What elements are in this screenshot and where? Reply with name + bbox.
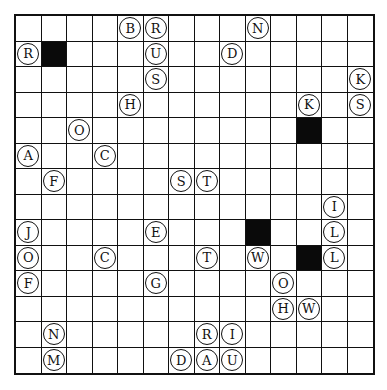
grid-cell[interactable] — [348, 297, 374, 323]
grid-cell[interactable] — [220, 169, 246, 195]
grid-cell[interactable] — [271, 42, 297, 68]
grid-cell[interactable] — [169, 271, 195, 297]
grid-cell[interactable] — [118, 348, 144, 374]
grid-cell[interactable] — [195, 271, 221, 297]
grid-cell[interactable] — [322, 67, 348, 93]
grid-cell[interactable] — [297, 348, 323, 374]
grid-cell[interactable]: F — [16, 271, 42, 297]
grid-cell[interactable] — [118, 297, 144, 323]
grid-cell[interactable] — [93, 271, 119, 297]
grid-cell[interactable] — [118, 246, 144, 272]
grid-cell[interactable] — [93, 220, 119, 246]
grid-cell[interactable] — [195, 67, 221, 93]
grid-cell[interactable]: C — [93, 246, 119, 272]
grid-cell[interactable]: B — [118, 16, 144, 42]
grid-cell[interactable] — [169, 322, 195, 348]
grid-cell[interactable]: S — [144, 67, 170, 93]
grid-cell[interactable] — [220, 220, 246, 246]
grid-cell[interactable]: T — [195, 246, 221, 272]
grid-cell[interactable] — [348, 322, 374, 348]
grid-cell[interactable] — [118, 118, 144, 144]
grid-cell[interactable] — [297, 195, 323, 221]
grid-cell[interactable] — [67, 42, 93, 68]
grid-cell[interactable] — [169, 93, 195, 119]
grid-cell[interactable] — [246, 348, 272, 374]
grid-cell[interactable] — [16, 16, 42, 42]
grid-cell[interactable]: C — [93, 144, 119, 170]
grid-cell[interactable] — [297, 67, 323, 93]
grid-cell[interactable] — [297, 42, 323, 68]
grid-cell[interactable]: H — [118, 93, 144, 119]
grid-cell[interactable] — [67, 195, 93, 221]
grid-cell[interactable]: O — [16, 246, 42, 272]
grid-cell[interactable]: J — [16, 220, 42, 246]
grid-cell[interactable] — [42, 16, 68, 42]
grid-cell[interactable] — [118, 220, 144, 246]
grid-cell[interactable] — [16, 348, 42, 374]
grid-cell[interactable]: G — [144, 271, 170, 297]
grid-cell[interactable]: S — [169, 169, 195, 195]
grid-cell[interactable] — [246, 144, 272, 170]
grid-cell[interactable] — [195, 144, 221, 170]
grid-cell[interactable] — [322, 118, 348, 144]
grid-cell[interactable]: R — [144, 16, 170, 42]
grid-cell[interactable]: T — [195, 169, 221, 195]
grid-cell[interactable] — [348, 220, 374, 246]
grid-cell[interactable] — [246, 271, 272, 297]
grid-cell[interactable] — [42, 195, 68, 221]
grid-cell[interactable] — [297, 144, 323, 170]
grid-cell[interactable]: E — [144, 220, 170, 246]
grid-cell[interactable] — [93, 169, 119, 195]
grid-cell[interactable] — [220, 67, 246, 93]
grid-cell[interactable] — [144, 348, 170, 374]
grid-cell[interactable] — [93, 322, 119, 348]
grid-cell[interactable] — [16, 322, 42, 348]
grid-cell[interactable]: N — [246, 16, 272, 42]
grid-cell[interactable] — [195, 42, 221, 68]
grid-cell[interactable] — [348, 195, 374, 221]
grid-cell[interactable]: M — [42, 348, 68, 374]
grid-cell[interactable] — [220, 144, 246, 170]
grid-cell[interactable] — [220, 195, 246, 221]
grid-cell[interactable]: R — [195, 322, 221, 348]
grid-cell[interactable]: I — [220, 322, 246, 348]
grid-cell[interactable] — [67, 271, 93, 297]
grid-cell[interactable] — [220, 297, 246, 323]
grid-cell[interactable] — [322, 42, 348, 68]
grid-cell[interactable] — [67, 67, 93, 93]
grid-cell[interactable] — [169, 67, 195, 93]
grid-cell[interactable] — [246, 169, 272, 195]
grid-cell[interactable] — [169, 246, 195, 272]
grid-cell[interactable] — [144, 169, 170, 195]
grid-cell[interactable] — [118, 144, 144, 170]
grid-cell[interactable] — [144, 118, 170, 144]
grid-cell[interactable] — [67, 220, 93, 246]
grid-cell[interactable] — [144, 93, 170, 119]
grid-cell[interactable] — [348, 271, 374, 297]
grid-cell[interactable] — [297, 322, 323, 348]
grid-cell[interactable] — [348, 348, 374, 374]
grid-cell[interactable] — [195, 297, 221, 323]
grid-cell[interactable] — [67, 144, 93, 170]
grid-cell[interactable] — [271, 322, 297, 348]
grid-cell[interactable] — [169, 42, 195, 68]
grid-cell[interactable] — [220, 246, 246, 272]
grid-cell[interactable] — [271, 144, 297, 170]
grid-cell[interactable] — [195, 118, 221, 144]
grid-cell[interactable] — [118, 322, 144, 348]
grid-cell[interactable]: D — [220, 42, 246, 68]
grid-cell[interactable] — [16, 297, 42, 323]
grid-cell[interactable] — [297, 220, 323, 246]
grid-cell[interactable]: H — [271, 297, 297, 323]
grid-cell[interactable]: A — [195, 348, 221, 374]
grid-cell[interactable]: W — [297, 297, 323, 323]
grid-cell[interactable] — [348, 144, 374, 170]
grid-cell[interactable] — [16, 169, 42, 195]
grid-cell[interactable]: I — [322, 195, 348, 221]
grid-cell[interactable] — [246, 118, 272, 144]
grid-cell[interactable] — [42, 118, 68, 144]
grid-cell[interactable] — [195, 93, 221, 119]
grid-cell[interactable]: O — [67, 118, 93, 144]
grid-cell[interactable] — [16, 118, 42, 144]
grid-cell[interactable] — [271, 67, 297, 93]
